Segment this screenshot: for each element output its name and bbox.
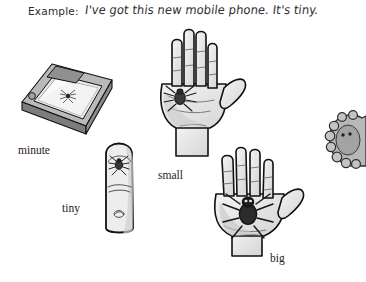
slide-corner-pin <box>29 93 36 100</box>
caption-small: small <box>158 169 183 181</box>
furry-spider-abdomen <box>336 125 360 155</box>
caption-tiny: tiny <box>62 202 80 214</box>
open-hand-big-spider-illustration <box>198 140 308 258</box>
open-hand-small-spider-illustration <box>146 14 250 160</box>
example-label: Example: <box>28 5 79 17</box>
caption-minute: minute <box>18 144 50 156</box>
huge-furry-spider-illustration <box>326 110 366 172</box>
microscope-slide-illustration <box>14 52 120 140</box>
fingertip-tiny-spider-illustration <box>92 132 148 236</box>
hand-outline <box>161 30 246 157</box>
caption-big: big <box>270 252 285 264</box>
